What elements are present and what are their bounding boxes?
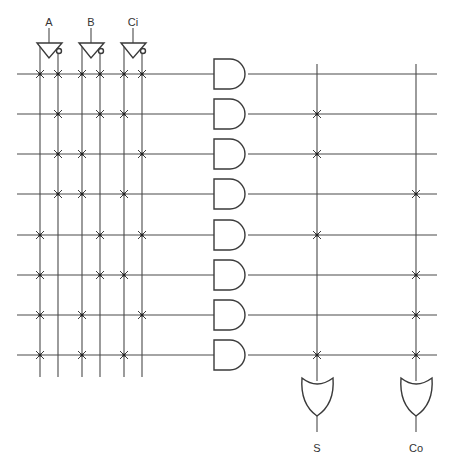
and-gate-1 (214, 59, 245, 89)
and-gate-3 (214, 139, 245, 169)
inverter-bubble-icon (141, 49, 146, 54)
inverter-bubble-icon (99, 49, 104, 54)
input-label-B: B (87, 16, 94, 28)
or-gates: SCo (302, 378, 432, 454)
and-gates (214, 59, 245, 370)
input-label-Ci: Ci (128, 16, 138, 28)
pla-diagram: ABCi SCo (0, 0, 455, 476)
output-label-Co: Co (409, 442, 423, 454)
and-gate-8 (214, 340, 245, 370)
or-gate-Co (401, 378, 432, 416)
and-gate-6 (214, 260, 245, 290)
output-label-S: S (313, 442, 320, 454)
output-column-wires (317, 64, 416, 381)
and-gate-7 (214, 300, 245, 330)
inverter-bubble-icon (57, 49, 62, 54)
and-gate-4 (214, 179, 245, 209)
input-buffers: ABCi (37, 16, 146, 58)
input-column-wires (40, 43, 142, 377)
and-gate-5 (214, 220, 245, 250)
input-label-A: A (45, 16, 53, 28)
and-gate-2 (214, 99, 245, 129)
or-gate-S (302, 378, 333, 416)
